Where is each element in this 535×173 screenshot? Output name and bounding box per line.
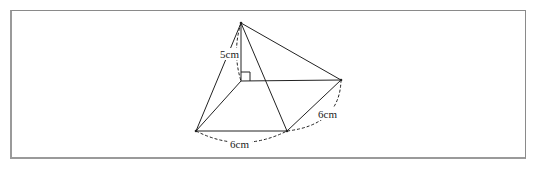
right-angle-marker (241, 72, 250, 81)
edge-apex-front-right (241, 23, 287, 131)
front-edge-label: 6cm (230, 138, 249, 150)
center-to-right (241, 80, 341, 81)
edge-apex-front-left (196, 23, 241, 131)
edge-base-right (287, 80, 341, 131)
pyramid-diagram: 5cm 6cm 6cm (0, 0, 535, 173)
right-edge-label: 6cm (318, 108, 337, 120)
center-to-front-left (196, 81, 241, 131)
height-label: 5cm (220, 48, 239, 60)
edge-apex-right (241, 23, 341, 80)
